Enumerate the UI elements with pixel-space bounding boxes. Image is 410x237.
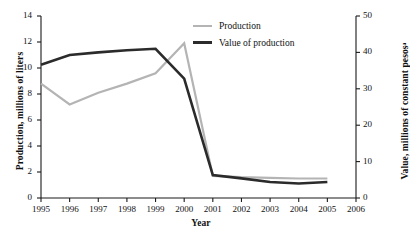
legend-label-value-of-production: Value of production [219,38,294,48]
chart-legend: Production Value of production [193,17,294,51]
legend-item-value-of-production: Value of production [193,34,294,51]
series-line-production [41,43,327,178]
legend-line-swatch-value [193,41,212,44]
legend-item-production: Production [193,17,294,34]
legend-line-swatch-production [193,25,212,27]
series-line-value-of-production [41,49,327,184]
legend-label-production: Production [219,21,261,31]
